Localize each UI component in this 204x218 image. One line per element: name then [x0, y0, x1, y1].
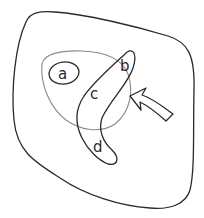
- venn-diagram: a b c d: [0, 0, 204, 218]
- region-label-d: d: [93, 138, 103, 156]
- region-label-c: c: [90, 85, 98, 103]
- region-label-a: a: [58, 65, 67, 83]
- region-label-b: b: [120, 57, 130, 75]
- large-circle-outline: [42, 51, 131, 130]
- curved-arrow-icon: [130, 88, 173, 121]
